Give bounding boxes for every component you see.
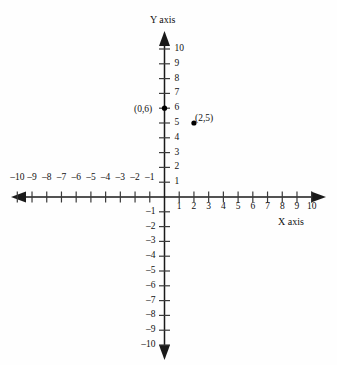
y-tick-label-9: 9: [175, 59, 180, 69]
y-tick-label--9: –9: [0, 325, 156, 335]
y-tick-label--1: –1: [0, 207, 156, 217]
x-tick-label--1: –1: [136, 173, 164, 183]
coordinate-plane-figure: Y axis X axis (0,6) (2,5) –10–9–8–7–6–5–…: [0, 0, 337, 365]
y-tick-label-7: 7: [175, 88, 180, 98]
y-tick-label-3: 3: [175, 148, 180, 158]
y-axis-up-arrow-icon: [159, 31, 170, 46]
y-tick-label-10: 10: [175, 44, 185, 54]
y-tick-label--2: –2: [0, 222, 156, 232]
y-axis-title: Y axis: [150, 15, 175, 25]
y-axis-down-arrow-icon: [159, 345, 170, 360]
y-tick-label-8: 8: [175, 74, 180, 84]
y-tick-label--6: –6: [0, 281, 156, 291]
x-tick-label-10: 10: [298, 202, 326, 212]
y-tick-label--5: –5: [0, 266, 156, 276]
data-point-0-6: [162, 106, 167, 111]
y-tick-label-1: 1: [175, 177, 180, 187]
y-tick-label-5: 5: [175, 118, 180, 128]
y-tick-label--7: –7: [0, 296, 156, 306]
y-tick-label--10: –10: [0, 340, 156, 350]
x-axis-left-arrow-icon: [11, 192, 26, 203]
y-tick-label-6: 6: [175, 103, 180, 113]
y-tick-label--4: –4: [0, 251, 156, 261]
y-tick-label--3: –3: [0, 236, 156, 246]
point-label-2-5: (2,5): [195, 114, 213, 124]
point-label-0-6: (0,6): [134, 105, 152, 115]
x-axis-title: X axis: [278, 217, 304, 227]
y-tick-label-2: 2: [175, 162, 180, 172]
y-tick-label-4: 4: [175, 133, 180, 143]
y-tick-label--8: –8: [0, 310, 156, 320]
